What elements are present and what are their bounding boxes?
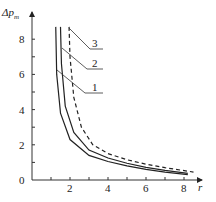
curve-label-2: 2: [92, 57, 98, 69]
svg-text:2: 2: [19, 139, 25, 151]
curve-label-1: 1: [92, 81, 98, 93]
svg-text:6: 6: [19, 68, 25, 80]
axes: [32, 12, 202, 180]
curve-label-3: 3: [92, 37, 98, 49]
curve-1: [56, 27, 188, 175]
svg-text:6: 6: [143, 182, 149, 194]
x-axis-label: r: [198, 181, 203, 193]
svg-text:0: 0: [19, 174, 25, 186]
curve-2: [61, 27, 188, 173]
curves: [56, 27, 194, 175]
y-axis-label: Δpm: [1, 6, 19, 21]
chart: 246802468 1 2 3 Δpm r: [0, 0, 216, 202]
svg-text:8: 8: [19, 33, 25, 45]
svg-text:4: 4: [105, 182, 111, 194]
svg-text:2: 2: [67, 182, 73, 194]
curve-3: [69, 27, 193, 172]
ticks: [32, 39, 184, 180]
svg-text:4: 4: [19, 104, 25, 116]
svg-text:8: 8: [181, 182, 187, 194]
